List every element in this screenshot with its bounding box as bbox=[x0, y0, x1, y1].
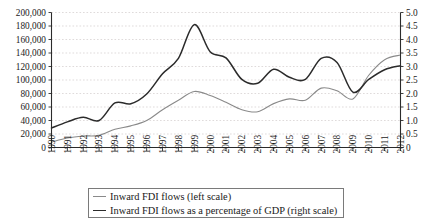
svg-text:1990: 1990 bbox=[47, 135, 57, 154]
svg-text:1998: 1998 bbox=[174, 135, 184, 154]
svg-text:40,000: 40,000 bbox=[20, 116, 46, 126]
svg-text:1993: 1993 bbox=[94, 135, 104, 154]
svg-text:5.0: 5.0 bbox=[406, 8, 418, 18]
y-axis-left-labels: 020,00040,00060,00080,000100,000120,0001… bbox=[16, 8, 47, 153]
chart-legend: Inward FDI flows (left scale) Inward FDI… bbox=[88, 188, 344, 218]
svg-text:100,000: 100,000 bbox=[16, 75, 47, 85]
axes-lines bbox=[52, 13, 401, 148]
svg-text:1991: 1991 bbox=[63, 135, 73, 154]
svg-text:2012: 2012 bbox=[396, 135, 406, 154]
svg-text:140,000: 140,000 bbox=[16, 48, 47, 58]
svg-text:2008: 2008 bbox=[332, 135, 342, 154]
svg-text:2007: 2007 bbox=[317, 135, 327, 154]
svg-text:1994: 1994 bbox=[110, 135, 120, 154]
svg-text:1992: 1992 bbox=[79, 135, 89, 154]
legend-item-left-scale: Inward FDI flows (left scale) bbox=[93, 190, 339, 204]
svg-text:1999: 1999 bbox=[190, 135, 200, 154]
svg-text:160,000: 160,000 bbox=[16, 35, 47, 45]
svg-text:2009: 2009 bbox=[348, 135, 358, 154]
svg-text:2001: 2001 bbox=[221, 135, 231, 154]
svg-text:180,000: 180,000 bbox=[16, 21, 47, 31]
svg-text:2010: 2010 bbox=[364, 135, 374, 154]
svg-text:4.5: 4.5 bbox=[406, 21, 418, 31]
svg-text:0.5: 0.5 bbox=[406, 129, 418, 139]
svg-text:80,000: 80,000 bbox=[20, 89, 46, 99]
svg-text:0: 0 bbox=[406, 143, 411, 153]
svg-text:4.0: 4.0 bbox=[406, 35, 418, 45]
svg-text:60,000: 60,000 bbox=[20, 102, 46, 112]
legend-swatch-left-scale bbox=[93, 196, 106, 197]
svg-text:2.0: 2.0 bbox=[406, 89, 418, 99]
svg-text:1.5: 1.5 bbox=[406, 102, 418, 112]
svg-text:2000: 2000 bbox=[206, 135, 216, 154]
chart-figure: 020,00040,00060,00080,000100,000120,0001… bbox=[0, 0, 430, 222]
svg-text:2005: 2005 bbox=[285, 135, 295, 154]
svg-text:2011: 2011 bbox=[380, 135, 390, 154]
svg-text:120,000: 120,000 bbox=[16, 62, 47, 72]
x-axis-labels: 1990199119921993199419951996199719981999… bbox=[47, 135, 406, 154]
svg-text:20,000: 20,000 bbox=[20, 129, 46, 139]
series-line-fdi-pct-gdp bbox=[52, 25, 401, 128]
svg-text:200,000: 200,000 bbox=[16, 8, 47, 18]
svg-text:2004: 2004 bbox=[269, 135, 279, 154]
svg-text:1996: 1996 bbox=[142, 135, 152, 154]
svg-text:2006: 2006 bbox=[301, 135, 311, 154]
y-axis-right-labels: 00.51.01.52.02.53.03.54.04.55.0 bbox=[406, 8, 418, 153]
series-lines bbox=[52, 25, 401, 142]
svg-text:1995: 1995 bbox=[126, 135, 136, 154]
svg-text:2002: 2002 bbox=[237, 135, 247, 154]
svg-text:3.0: 3.0 bbox=[406, 62, 418, 72]
svg-text:2003: 2003 bbox=[253, 135, 263, 154]
legend-label-left-scale: Inward FDI flows (left scale) bbox=[110, 190, 231, 204]
svg-text:3.5: 3.5 bbox=[406, 48, 418, 58]
svg-text:1997: 1997 bbox=[158, 135, 168, 154]
legend-swatch-right-scale bbox=[93, 210, 106, 211]
legend-item-right-scale: Inward FDI flows as a percentage of GDP … bbox=[93, 204, 339, 218]
svg-text:1.0: 1.0 bbox=[406, 116, 418, 126]
svg-text:0: 0 bbox=[41, 143, 46, 153]
series-line-fdi-flows bbox=[52, 55, 401, 142]
legend-label-right-scale: Inward FDI flows as a percentage of GDP … bbox=[110, 204, 337, 218]
svg-text:2.5: 2.5 bbox=[406, 75, 418, 85]
